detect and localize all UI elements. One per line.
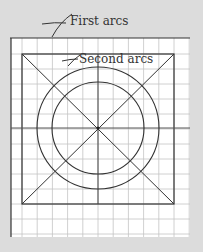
first-arcs-label: First arcs: [70, 14, 128, 28]
second-arcs-label: Second arcs: [79, 52, 153, 66]
centre-point: [96, 126, 99, 129]
construction-diagram: First arcs Second arcs: [0, 0, 203, 252]
first-arc-mark-vertical: [52, 14, 72, 37]
